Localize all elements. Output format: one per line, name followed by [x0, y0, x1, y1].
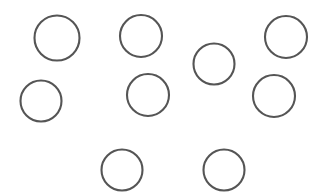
- figure-canvas: [0, 0, 320, 196]
- circles-scatter-plot: [0, 0, 320, 196]
